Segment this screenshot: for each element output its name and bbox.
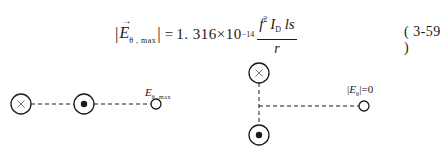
e-theta-zero-label: |Eθ|=0 [347,83,373,97]
dot-mark [81,101,87,107]
dot-mark [256,132,262,138]
left-configuration [11,94,161,114]
label-symbol: E [349,83,356,95]
e-theta-max-label: Eθ ,max [145,86,171,100]
right-configuration [249,63,369,145]
dipole-diagram [0,0,445,159]
label-value: =0 [362,83,374,95]
observation-point-icon [151,99,161,109]
label-symbol: E [145,86,152,98]
observation-point-icon [359,101,369,111]
label-subscript: θ ,max [152,94,171,100]
